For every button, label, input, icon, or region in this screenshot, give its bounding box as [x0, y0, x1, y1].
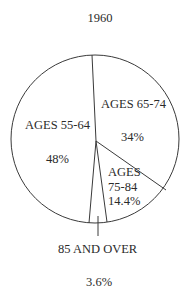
slice-value-55-64: 48% — [46, 152, 69, 166]
slice-value-85-over: 3.6% — [86, 275, 112, 289]
slice-value-75-84: 14.4% — [108, 194, 140, 208]
slice-label-65-74: AGES 65-74 — [101, 97, 166, 111]
slice-label-55-64: AGES 55-64 — [25, 118, 90, 132]
chart-title: 1960 — [0, 11, 187, 26]
slice-label-75-84-line1: AGES — [108, 165, 141, 179]
pie-outline — [11, 55, 179, 223]
slice-value-65-74: 34% — [121, 130, 144, 144]
slice-label-85-over: 85 AND OVER — [58, 242, 137, 256]
slice-label-75-84-line2: 75-84 — [108, 180, 137, 194]
